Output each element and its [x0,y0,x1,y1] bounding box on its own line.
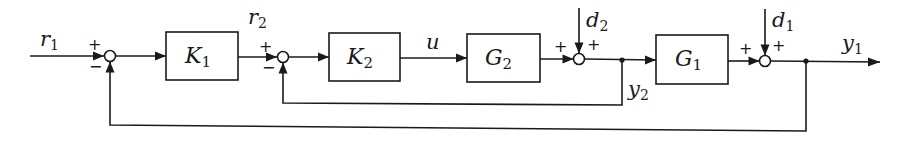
sign-plus: + [259,37,272,56]
sign-minus: − [89,57,102,76]
sign-plus: + [739,39,752,58]
wire-s2-k2 [289,53,330,62]
arrow-head-icon [318,53,329,62]
sign-minus: − [262,58,275,77]
label-y2: y2 [627,77,649,103]
label-u: u [426,30,440,54]
arrow-head-icon [761,45,770,56]
block-g1: G1 [656,35,728,84]
block-g2: G2 [467,34,540,82]
signal-y1: y1 [771,31,881,67]
block-diagram: r1 + − K1 r2 + − K2 u [0,0,906,141]
arrow-head-icon [155,52,166,61]
label-r2: r2 [248,5,267,31]
sign-plus: + [772,36,785,55]
arrow-head-icon [645,56,656,65]
block-k2: K2 [329,33,400,81]
wire-s1-k1 [116,52,167,61]
arrow-head-icon [279,63,288,74]
label-d2: d2 [586,8,608,34]
label-y1: y1 [841,31,863,57]
arrow-head-icon [456,54,467,63]
sign-plus: + [587,35,600,54]
sign-plus: + [88,35,101,54]
block-k1: K1 [166,32,238,80]
label-d1: d1 [772,8,794,34]
sign-plus: + [554,37,567,56]
arrow-head-icon [868,58,880,67]
summing-junction-4: + + [739,36,785,67]
signal-y2: y2 [585,56,657,104]
summing-junction-3: + + [554,35,600,65]
label-r1: r1 [40,27,59,53]
signal-u: u [400,30,467,63]
arrow-head-icon [106,62,115,73]
arrow-head-icon [575,43,584,54]
